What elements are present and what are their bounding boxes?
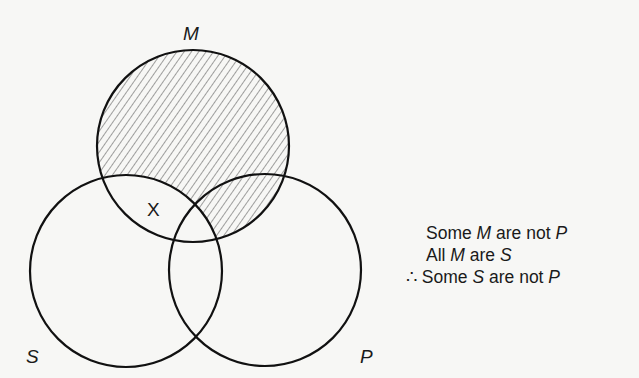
venn-diagram <box>0 0 639 378</box>
therefore-symbol: ∴ <box>406 267 417 287</box>
shaded-region-m-not-s <box>0 0 639 378</box>
label-s: S <box>26 346 39 368</box>
conclusion: ∴ Some S are not P <box>406 266 567 288</box>
syllogism-text: Some M are not P All M are S ∴ Some S ar… <box>420 222 567 288</box>
x-marker: X <box>147 199 160 221</box>
premise-2: All M are S <box>420 244 567 266</box>
label-p: P <box>360 346 373 368</box>
label-m: M <box>183 23 199 45</box>
premise-1: Some M are not P <box>420 222 567 244</box>
